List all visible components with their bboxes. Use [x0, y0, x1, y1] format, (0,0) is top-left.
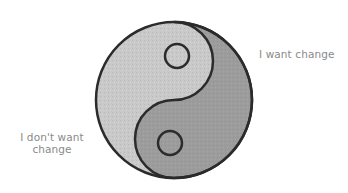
dark-dot: [158, 131, 182, 155]
light-dot: [165, 44, 189, 68]
yin-yang-diagram: I want change I don't want change: [0, 0, 348, 193]
label-left-line2: change: [8, 143, 96, 155]
label-left-line1: I don't want: [8, 131, 96, 143]
yin-yang-icon: [0, 0, 348, 193]
label-want-change: I want change: [259, 48, 335, 60]
label-dont-want-change: I don't want change: [8, 131, 96, 155]
